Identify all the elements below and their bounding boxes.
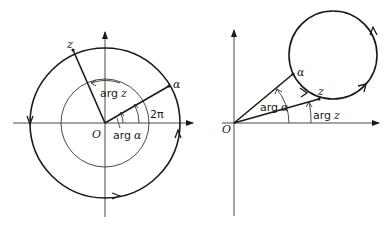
left-arg-alpha-label: argα [113,129,142,142]
right-alpha-point [291,72,294,75]
right-alpha-label: α [297,66,305,79]
left-two-pi-arc [135,106,139,123]
left-direction-arrow-icon [112,193,120,199]
left-figure: z α O argz argα 2π [13,32,193,217]
right-figure: α z O argα argz [222,11,379,216]
left-z-label: z [66,38,73,51]
left-alpha-point [167,84,170,87]
right-direction-arrow-icon [370,27,377,35]
right-alpha-ray [234,74,293,123]
left-arg-alpha-arc [121,114,123,123]
left-two-pi-label: 2π [150,108,164,121]
left-arg-z-label: argz [100,87,127,100]
diagram-canvas: z α O argz argα 2π α z O argα argz [0,0,392,230]
left-origin-label: O [92,128,101,141]
right-origin-label: O [222,123,231,136]
right-arg-z-label: argz [313,109,340,122]
right-z-label: z [317,85,324,98]
right-circle [289,11,377,99]
left-alpha-label: α [173,78,181,91]
right-arg-alpha-label: argα [260,101,289,114]
